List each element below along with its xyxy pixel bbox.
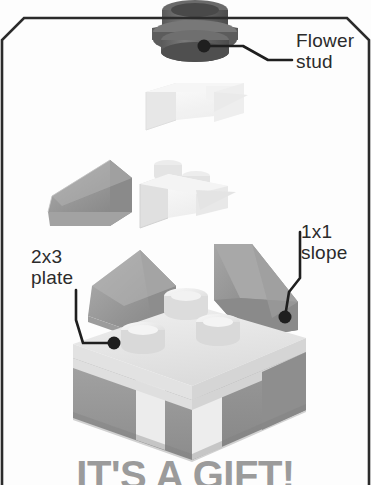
callout-label-2x3-plate: 2x3 plate [31,246,73,288]
gray-slope-piece [48,160,132,226]
leader-dot-2x3-plate [108,337,121,350]
leader-dot-1x1-slope [279,311,292,324]
white-plate-piece-ghost [146,83,248,130]
gift-box-assembly [73,244,306,462]
callout-label-1x1-slope: 1x1 slope [301,221,347,263]
footer-heading: IT'S A GIFT! [0,455,371,485]
leader-dot-flower-stud [198,40,211,53]
flower-stud-piece [152,0,238,62]
callout-label-flower-stud: Flower stud [296,30,354,72]
white-plate-studs-piece [140,160,236,228]
instruction-page: Flower stud 1x1 slope 2x3 plate IT'S A G… [0,0,371,485]
